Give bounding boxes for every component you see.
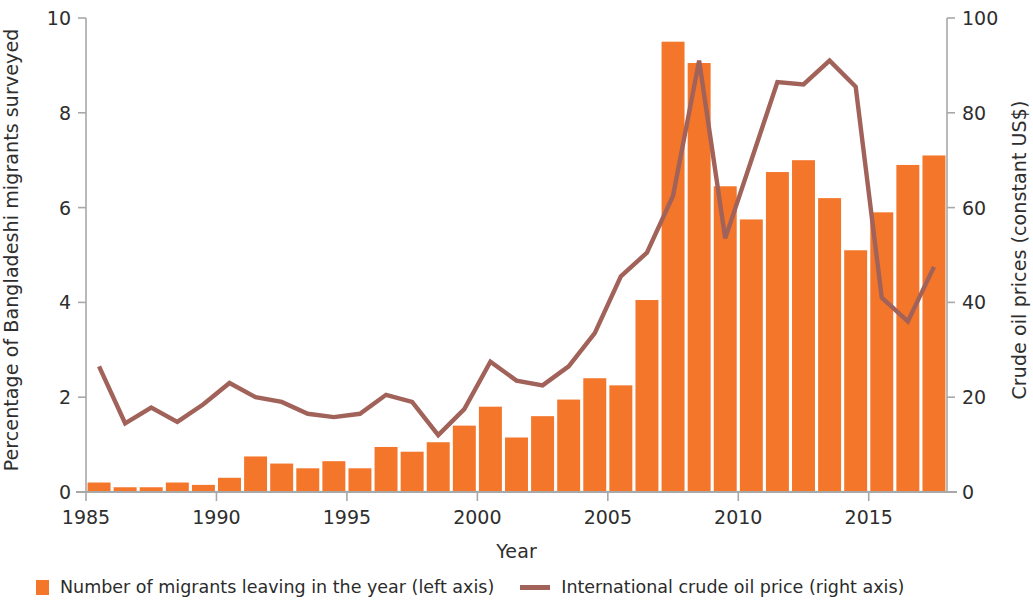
legend-line-swatch-icon bbox=[520, 585, 550, 590]
x-tick-label: 2015 bbox=[845, 506, 893, 528]
bar-1991 bbox=[244, 456, 267, 492]
x-tick-label: 2000 bbox=[453, 506, 501, 528]
bar-2015 bbox=[870, 212, 893, 492]
bar-2012 bbox=[792, 160, 815, 492]
legend-item-bars: Number of migrants leaving in the year (… bbox=[36, 579, 494, 597]
legend-label-bars: Number of migrants leaving in the year (… bbox=[60, 579, 494, 597]
chart-plot-area: 0246810 020406080100 1985199019952000200… bbox=[0, 0, 1033, 610]
bar-2002 bbox=[531, 416, 554, 492]
chart-legend: Number of migrants leaving in the year (… bbox=[36, 579, 904, 597]
bar-series bbox=[88, 42, 946, 492]
bar-2013 bbox=[818, 198, 841, 492]
bar-2005 bbox=[609, 385, 632, 492]
x-tick-label: 2005 bbox=[584, 506, 632, 528]
y-right-tick-label: 100 bbox=[962, 7, 998, 29]
bar-2003 bbox=[557, 400, 580, 492]
x-tick-label: 1995 bbox=[323, 506, 371, 528]
bar-2010 bbox=[740, 219, 763, 492]
legend-bar-swatch-icon bbox=[36, 580, 49, 595]
y-right-tick-label: 20 bbox=[962, 386, 986, 408]
y-left-tick-label: 8 bbox=[59, 102, 71, 124]
bar-1999 bbox=[453, 426, 476, 492]
bar-2004 bbox=[583, 378, 606, 492]
bar-1997 bbox=[401, 452, 424, 492]
y-axis-left-ticks: 0246810 bbox=[47, 7, 86, 503]
legend-label-line: International crude oil price (right axi… bbox=[561, 579, 904, 597]
bar-2016 bbox=[896, 165, 919, 492]
legend-item-line: International crude oil price (right axi… bbox=[494, 579, 904, 597]
y-axis-right-ticks: 020406080100 bbox=[947, 7, 998, 503]
bar-1992 bbox=[270, 464, 293, 492]
y-right-tick-label: 40 bbox=[962, 291, 986, 313]
bar-1998 bbox=[427, 442, 450, 492]
y-right-tick-label: 60 bbox=[962, 197, 986, 219]
y-left-tick-label: 4 bbox=[59, 291, 71, 313]
chart-figure: Percentage of Bangladeshi migrants surve… bbox=[0, 0, 1033, 610]
bar-1993 bbox=[296, 468, 319, 492]
bar-2007 bbox=[662, 42, 685, 492]
bar-1994 bbox=[322, 461, 345, 492]
y-left-tick-label: 0 bbox=[59, 481, 71, 503]
y-left-tick-label: 10 bbox=[47, 7, 71, 29]
y-right-tick-label: 0 bbox=[962, 481, 974, 503]
bar-1985 bbox=[88, 483, 111, 492]
bar-1988 bbox=[166, 483, 189, 492]
bar-2017 bbox=[922, 155, 945, 492]
bar-1996 bbox=[375, 447, 398, 492]
bar-1989 bbox=[192, 485, 215, 492]
x-tick-label: 1985 bbox=[62, 506, 110, 528]
bar-2011 bbox=[766, 172, 789, 492]
y-right-tick-label: 80 bbox=[962, 102, 986, 124]
bar-2001 bbox=[505, 437, 528, 492]
bar-2000 bbox=[479, 407, 502, 492]
x-tick-label: 2010 bbox=[714, 506, 762, 528]
x-tick-label: 1990 bbox=[192, 506, 240, 528]
bar-2014 bbox=[844, 250, 867, 492]
bar-1995 bbox=[348, 468, 371, 492]
bar-2006 bbox=[635, 300, 658, 492]
x-axis-ticks: 1985199019952000200520102015 bbox=[62, 492, 893, 528]
bar-1990 bbox=[218, 478, 241, 492]
y-left-tick-label: 2 bbox=[59, 386, 71, 408]
y-left-tick-label: 6 bbox=[59, 197, 71, 219]
